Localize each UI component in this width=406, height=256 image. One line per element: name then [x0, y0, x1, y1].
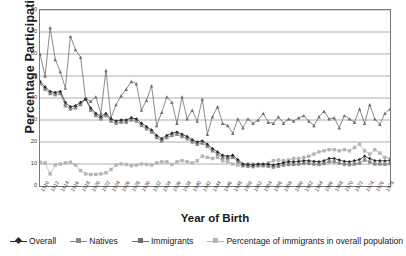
legend-label: Immigrants [151, 236, 194, 246]
data-point-marker [104, 69, 107, 72]
data-point-marker [99, 172, 102, 175]
data-point-marker [241, 126, 244, 129]
data-point-marker [206, 156, 209, 159]
data-point-marker [378, 162, 381, 165]
legend-label: Overall [29, 236, 56, 246]
data-point-marker [150, 163, 153, 166]
data-point-marker [327, 157, 330, 160]
x-axis-title: Year of Birth [39, 212, 391, 224]
data-point-marker [388, 107, 390, 110]
data-point-marker [140, 108, 143, 111]
chart-legend: OverallNativesImmigrantsPercentage of im… [10, 232, 402, 250]
data-point-marker [64, 104, 67, 107]
y-axis-tick-label: 10 [9, 161, 37, 167]
data-point-marker [54, 163, 57, 166]
y-axis-tick-label: 20 [9, 139, 37, 145]
data-point-marker [272, 159, 275, 162]
data-point-marker [368, 160, 371, 163]
y-axis-tick-label: 80 [9, 7, 37, 13]
data-point-marker [201, 155, 204, 158]
series-immigrants [40, 26, 390, 136]
data-point-marker [175, 160, 178, 163]
legend-entry[interactable]: Immigrants [132, 236, 194, 246]
data-point-marker [79, 169, 82, 172]
data-point-marker [358, 143, 361, 146]
data-point-marker [302, 156, 305, 159]
data-point-marker [89, 173, 92, 176]
legend-label: Percentage of immigrants in overall popu… [226, 236, 403, 246]
data-point-marker [190, 161, 193, 164]
y-axis-tick-label: 60 [9, 51, 37, 57]
data-point-marker [69, 161, 72, 164]
data-point-marker [353, 159, 356, 162]
data-point-marker [373, 148, 376, 151]
series-line [40, 28, 390, 135]
data-point-marker [343, 114, 346, 117]
data-point-marker [363, 149, 366, 152]
data-point-marker [297, 116, 300, 119]
data-point-marker [373, 159, 376, 162]
legend-entry[interactable]: Overall [10, 236, 56, 246]
legend-marker-icon [207, 237, 224, 246]
data-point-marker [185, 160, 188, 163]
data-point-marker [368, 103, 371, 106]
data-point-marker [327, 148, 330, 151]
data-point-marker [322, 110, 325, 113]
data-point-marker [48, 172, 51, 175]
data-point-marker [373, 117, 376, 120]
data-point-marker [231, 162, 234, 165]
y-axis-tick-label: 50 [9, 73, 37, 79]
legend-entry[interactable]: Percentage of immigrants in overall popu… [207, 236, 403, 246]
legend-marker-icon [10, 237, 27, 246]
y-axis-tick-label: 70 [9, 29, 37, 35]
data-point-marker [206, 133, 209, 136]
data-point-marker [211, 115, 214, 118]
data-point-marker [59, 70, 62, 73]
data-point-marker [130, 80, 133, 83]
data-point-marker [363, 122, 366, 125]
data-point-marker [114, 163, 117, 166]
legend-entry[interactable]: Natives [70, 236, 118, 246]
data-point-marker [338, 126, 341, 129]
plot-area [39, 9, 391, 187]
data-point-marker [40, 161, 42, 164]
data-point-marker [64, 86, 67, 89]
data-point-marker [155, 161, 158, 164]
data-point-marker [135, 163, 138, 166]
data-point-marker [160, 111, 163, 114]
data-point-marker [312, 152, 315, 155]
data-point-marker [69, 35, 72, 38]
data-point-marker [99, 112, 102, 115]
data-point-marker [388, 162, 390, 165]
data-point-marker [165, 160, 168, 163]
data-point-marker [353, 146, 356, 149]
data-point-marker [353, 162, 356, 165]
data-point-marker [59, 162, 62, 165]
data-point-marker [74, 48, 77, 51]
data-point-marker [175, 122, 178, 125]
data-point-marker [211, 157, 214, 160]
data-point-marker [292, 157, 295, 160]
legend-label: Natives [89, 236, 118, 246]
y-axis-tick-label: 40 [9, 95, 37, 101]
data-point-marker [322, 149, 325, 152]
data-point-marker [109, 168, 112, 171]
data-point-marker [261, 112, 264, 115]
data-point-marker [333, 160, 336, 163]
data-point-marker [378, 159, 381, 162]
data-point-marker [114, 103, 117, 106]
data-point-marker [155, 124, 158, 127]
data-point-marker [302, 114, 305, 117]
data-point-marker [277, 158, 280, 161]
data-point-marker [363, 158, 366, 161]
data-point-marker [338, 161, 341, 164]
data-point-marker [333, 148, 336, 151]
data-point-marker [383, 163, 386, 166]
series-overall [40, 80, 390, 167]
data-point-marker [358, 161, 361, 164]
data-point-marker [190, 108, 193, 111]
data-point-marker [338, 158, 341, 161]
data-point-marker [383, 159, 386, 162]
data-point-marker [317, 150, 320, 153]
data-point-marker [343, 148, 346, 151]
